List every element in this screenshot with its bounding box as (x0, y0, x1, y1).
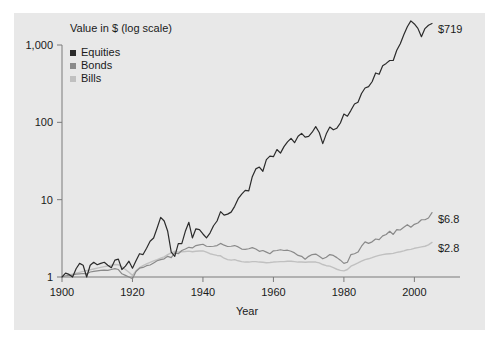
legend-label-equities: Equities (81, 46, 121, 58)
chart-text-labels: 1,000100101190019201940196019802000Value… (25, 22, 462, 317)
x-axis-tick-label: 1900 (50, 286, 74, 298)
chart-plot-area: 1,000100101190019201940196019802000Value… (0, 0, 499, 342)
x-axis-tick-label: 1920 (120, 286, 144, 298)
x-axis-tick-label: 1960 (261, 286, 285, 298)
series-end-label-bills: $2.8 (438, 242, 459, 254)
series-end-label-equities: $719 (438, 23, 462, 35)
y-axis-tick-label: 1,000 (25, 39, 53, 51)
legend-swatch-bills (70, 76, 76, 82)
series-group (62, 21, 432, 279)
legend-label-bills: Bills (81, 72, 102, 84)
chart-figure: 1,000100101190019201940196019802000Value… (0, 0, 499, 342)
y-axis-tick-label: 1 (47, 271, 53, 283)
series-line-bonds (62, 213, 432, 279)
series-end-label-bonds: $6.8 (438, 213, 459, 225)
x-axis-label: Year (236, 305, 259, 317)
x-axis-tick-label: 1980 (332, 286, 356, 298)
y-axis-tick-label: 10 (41, 194, 53, 206)
legend-swatch-equities (70, 50, 76, 56)
legend-swatch-bonds (70, 63, 76, 69)
axes-group (57, 45, 460, 282)
x-axis-tick-label: 1940 (191, 286, 215, 298)
y-axis-tick-label: 100 (35, 116, 53, 128)
x-axis-tick-label: 2000 (402, 286, 426, 298)
chart-title: Value in $ (log scale) (70, 22, 172, 34)
legend-label-bonds: Bonds (81, 59, 113, 71)
